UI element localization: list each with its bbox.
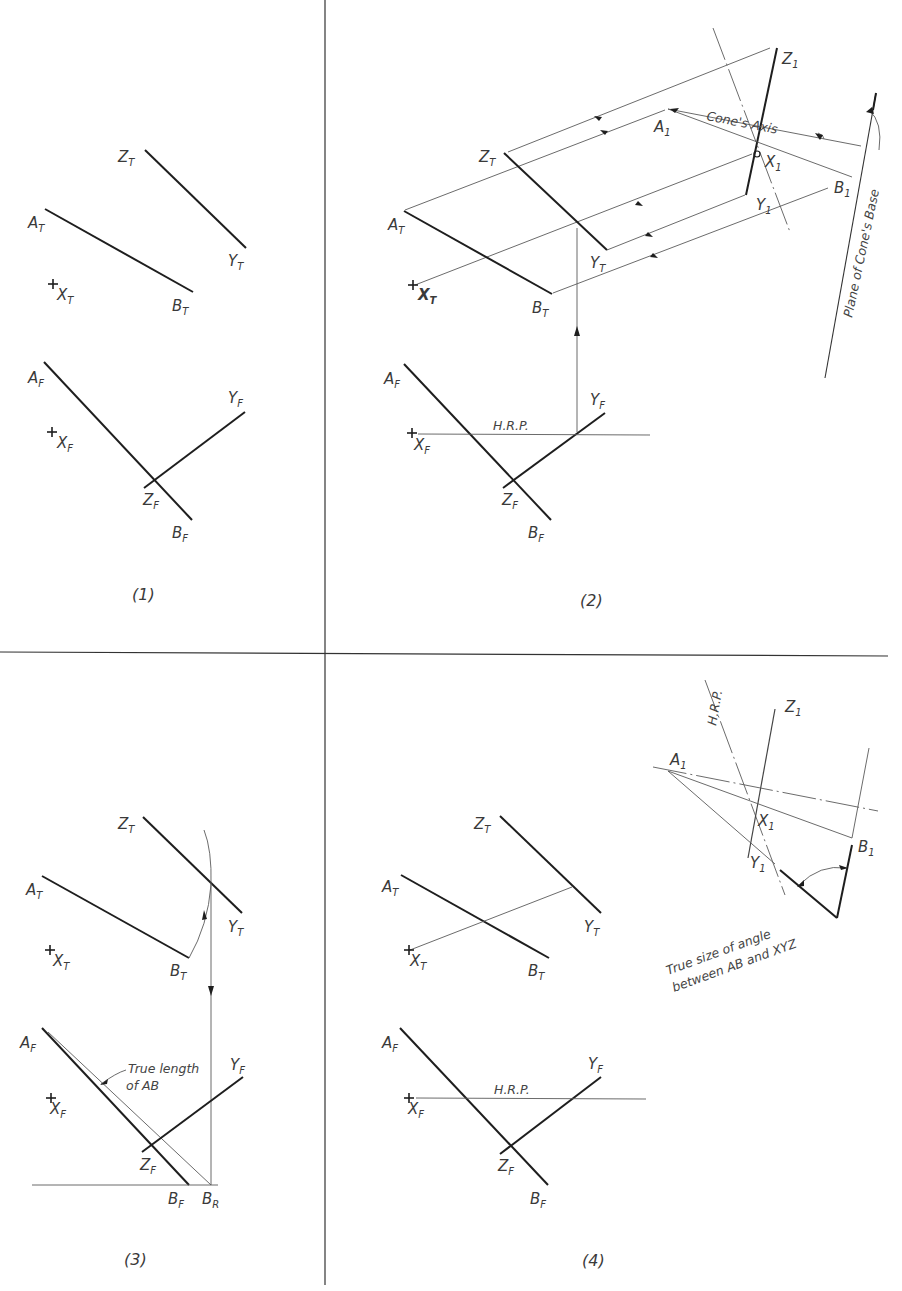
label-xf: XF [407, 1100, 424, 1120]
angle-arc [799, 867, 846, 885]
label-yt: YT [228, 252, 244, 272]
cone-axis-label: Cone's Axis [705, 108, 779, 137]
label-a1: A1 [669, 751, 687, 771]
caption-2: (2) [580, 591, 603, 610]
projector-b [553, 188, 828, 293]
label-xf: XF [413, 436, 430, 456]
label-yf: YF [230, 1056, 245, 1076]
line-at-bt [45, 209, 193, 292]
label-yt: YT [584, 918, 600, 938]
label-xt: XT [52, 952, 70, 972]
line-at-bt [404, 211, 552, 294]
point-xf-icon [47, 427, 57, 437]
label-bf: BF [168, 1190, 184, 1210]
label-zt: ZT [117, 815, 135, 835]
caption-1: (1) [132, 585, 155, 604]
horizontal-divider [0, 652, 888, 656]
line-zt-yt [500, 816, 601, 913]
label-zt: ZT [117, 148, 135, 168]
label-zf: ZF [142, 491, 159, 511]
label-y1: Y1 [750, 854, 766, 874]
label-af: AF [27, 369, 44, 389]
label-b1: B1 [858, 838, 875, 858]
descriptive-geometry-figure: ZT AT YT XT BT AF YF XF ZF BF (1) [0, 0, 902, 1291]
label-yt: YT [590, 254, 606, 274]
label-yf: YF [228, 389, 243, 409]
true-length-line [48, 1032, 211, 1185]
label-bf: BF [528, 524, 544, 544]
hrp-label-aux: H.R.P. [704, 689, 725, 727]
label-bt: BT [532, 299, 549, 319]
line-zt-yt [145, 150, 246, 248]
label-zf: ZF [497, 1157, 514, 1177]
hrp-line [418, 434, 650, 435]
label-xt: XT [409, 952, 427, 972]
line-af-bf [42, 1028, 189, 1185]
label-af: AF [19, 1034, 36, 1054]
label-y1: Y1 [756, 196, 772, 216]
line-at-bt [42, 876, 189, 958]
true-length-note: True length [128, 1061, 199, 1076]
label-xf: XF [49, 1100, 66, 1120]
label-at: AT [27, 214, 45, 234]
label-x1: X1 [757, 812, 775, 832]
true-length-note-2: of AB [126, 1078, 159, 1093]
label-xt: XT [56, 286, 74, 306]
label-yf: YF [588, 1055, 603, 1075]
label-at: AT [381, 878, 399, 898]
angle-leg-2 [837, 845, 852, 918]
label-yt: YT [228, 918, 244, 938]
panel-2: ZT AT YT XT BT Cone's Axis Plane of Cone… [383, 28, 882, 610]
label-bt: BT [528, 962, 545, 982]
projector-a [405, 110, 665, 210]
label-at: AT [387, 216, 405, 236]
hrp-label: H.R.P. [494, 1082, 530, 1097]
plane-of-cone-base-label: Plane of Cone's Base [840, 187, 882, 318]
label-zf: ZF [501, 491, 518, 511]
caption-3: (3) [124, 1250, 147, 1269]
label-bf: BF [172, 524, 188, 544]
projector-x [415, 154, 752, 285]
label-br: BR [202, 1190, 219, 1210]
projector-b1 [852, 748, 869, 838]
label-xt: XT [417, 286, 438, 306]
label-af: AF [383, 370, 400, 390]
label-at: AT [25, 881, 43, 901]
label-a1: A1 [653, 118, 671, 138]
line-zf-yf [144, 412, 245, 488]
point-xt-icon [408, 280, 418, 290]
projector-z [508, 48, 770, 152]
line-zt-yt [143, 817, 242, 913]
label-z1: Z1 [784, 698, 802, 718]
label-x1: X1 [764, 153, 782, 173]
label-zt: ZT [478, 148, 496, 168]
line-at-bt [401, 875, 549, 958]
label-bt: BT [172, 297, 189, 317]
label-zf: ZF [139, 1156, 156, 1176]
projector-y [607, 195, 745, 250]
line-zt-yt [504, 153, 607, 250]
label-z1: Z1 [781, 50, 799, 70]
label-bt: BT [170, 962, 187, 982]
caption-4: (4) [582, 1251, 605, 1270]
label-xf: XF [56, 434, 73, 454]
label-b1: B1 [834, 179, 851, 199]
line-af-bf [400, 1028, 548, 1185]
panel-3: ZT AT YT XT BT True length of AB AF YF X… [19, 815, 245, 1269]
label-af: AF [381, 1034, 398, 1054]
label-zt: ZT [473, 815, 491, 835]
line-af-bf [404, 364, 551, 520]
hrp-label: H.R.P. [493, 418, 529, 433]
line-xt-hrp [410, 887, 572, 950]
label-bf: BF [530, 1190, 546, 1210]
panel-4: ZT AT YT XT BT H.R.P. AF YF XF ZF BF (4)… [381, 680, 878, 1270]
line-z1-y1 [748, 709, 775, 858]
label-yf: YF [590, 391, 605, 411]
line-a1-extended [653, 767, 878, 811]
panel-1: ZT AT YT XT BT AF YF XF ZF BF (1) [27, 148, 246, 604]
revolution-arc [189, 830, 211, 958]
hrp-line [416, 1098, 646, 1099]
